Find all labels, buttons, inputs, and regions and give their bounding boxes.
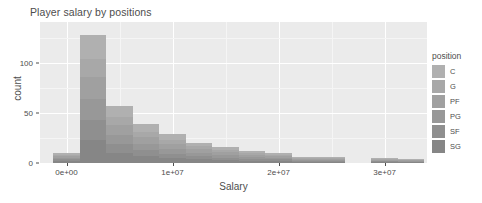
x-tick-mark	[385, 163, 386, 166]
histogram-bar	[212, 147, 239, 163]
bar-segment-c	[133, 124, 160, 132]
bar-segment-pf	[398, 160, 425, 161]
x-tick-label: 2e+07	[267, 168, 289, 177]
y-tick-label: 50	[24, 109, 33, 118]
bar-segment-sg	[106, 153, 133, 163]
plot-panel	[40, 22, 427, 163]
bar-segment-c	[318, 157, 345, 158]
bar-segment-sf	[292, 161, 319, 162]
x-tick-label: 0e+00	[55, 168, 77, 177]
bar-segment-pf	[106, 125, 133, 135]
x-tick-label: 1e+07	[161, 168, 183, 177]
x-tick-mark	[279, 163, 280, 166]
legend: position CGPFPGSFSG	[432, 51, 482, 154]
legend-item-label: PF	[450, 97, 460, 106]
bar-segment-pf	[318, 159, 345, 160]
legend-item-label: SF	[450, 127, 460, 136]
bar-segment-pf	[133, 137, 160, 144]
bar-segment-c	[398, 159, 425, 160]
histogram-bar	[186, 143, 213, 163]
bar-segment-pg	[133, 144, 160, 150]
legend-item-g[interactable]: G	[432, 79, 482, 94]
bar-segment-pf	[186, 149, 213, 153]
bar-segment-sf	[265, 159, 292, 161]
x-tick-mark	[67, 163, 68, 166]
histogram-bar	[106, 106, 133, 163]
x-tick-mark	[173, 163, 174, 166]
bar-segment-g	[239, 153, 266, 155]
legend-item-c[interactable]: C	[432, 64, 482, 79]
legend-swatch-icon	[432, 110, 445, 123]
histogram-bar	[265, 153, 292, 163]
bar-segment-sf	[212, 158, 239, 160]
legend-swatch-icon	[432, 95, 445, 108]
legend-item-label: SG	[450, 142, 461, 151]
gridline-vertical-major	[279, 22, 280, 163]
bar-segment-pf	[80, 77, 107, 99]
legend-item-label: C	[450, 67, 455, 76]
bar-segment-g	[133, 132, 160, 137]
bar-segment-g	[106, 117, 133, 125]
bar-segment-pf	[239, 155, 266, 157]
bar-segment-pg	[159, 149, 186, 154]
bar-segment-pg	[186, 153, 213, 156]
legend-items: CGPFPGSFSG	[432, 64, 482, 154]
bar-segment-sf	[186, 156, 213, 159]
bar-segment-sg	[80, 140, 107, 163]
bar-segment-sf	[239, 159, 266, 161]
bar-segment-pg	[106, 135, 133, 144]
bar-segment-g	[159, 140, 186, 144]
bar-segment-pg	[398, 161, 425, 162]
x-axis-title: Salary	[40, 181, 427, 192]
bar-segment-pg	[53, 158, 80, 159]
y-tick-mark	[36, 113, 39, 114]
bar-segment-g	[80, 59, 107, 77]
y-tick-mark	[36, 163, 39, 164]
gridline-vertical-major	[67, 22, 68, 163]
y-tick-mark	[36, 63, 39, 64]
bar-segment-sf	[106, 144, 133, 153]
legend-item-sg[interactable]: SG	[432, 139, 482, 154]
bar-segment-pg	[239, 157, 266, 159]
legend-item-label: G	[450, 82, 456, 91]
histogram-bar	[239, 151, 266, 163]
histogram-bar	[80, 35, 107, 163]
bar-segment-g	[318, 158, 345, 159]
bar-segment-pg	[265, 158, 292, 159]
y-axis-title: count	[12, 59, 23, 119]
bar-segment-g	[212, 150, 239, 152]
bar-segment-c	[80, 35, 107, 59]
bar-segment-c	[292, 157, 319, 158]
legend-item-label: PG	[450, 112, 461, 121]
legend-swatch-icon	[432, 125, 445, 138]
histogram-bar	[159, 134, 186, 163]
bar-segment-g	[292, 158, 319, 159]
bar-segment-c	[212, 147, 239, 150]
legend-swatch-icon	[432, 65, 445, 78]
gridline-vertical-minor	[332, 22, 333, 163]
chart-title: Player salary by positions	[30, 6, 152, 18]
y-tick-label: 0	[29, 159, 33, 168]
bar-segment-c	[239, 151, 266, 153]
bar-segment-sf	[133, 150, 160, 156]
legend-title: position	[432, 51, 482, 61]
bar-segment-sf	[159, 154, 186, 158]
bar-segment-pf	[53, 156, 80, 158]
x-axis: 0e+001e+072e+073e+07	[40, 163, 427, 181]
bar-segment-g	[265, 155, 292, 156]
bar-segment-pg	[80, 99, 107, 120]
legend-swatch-icon	[432, 80, 445, 93]
legend-item-sf[interactable]: SF	[432, 124, 482, 139]
bar-segment-sg	[133, 156, 160, 163]
gridline-vertical-major	[385, 22, 386, 163]
legend-item-pg[interactable]: PG	[432, 109, 482, 124]
bar-segment-g	[186, 146, 213, 149]
bar-segment-pf	[371, 160, 398, 161]
legend-item-pf[interactable]: PF	[432, 94, 482, 109]
gridline-vertical-minor	[226, 22, 227, 163]
bar-segment-pf	[159, 144, 186, 149]
legend-swatch-icon	[432, 140, 445, 153]
bar-segment-sf	[80, 120, 107, 140]
bar-segment-pf	[292, 159, 319, 160]
bar-segment-pf	[212, 152, 239, 155]
